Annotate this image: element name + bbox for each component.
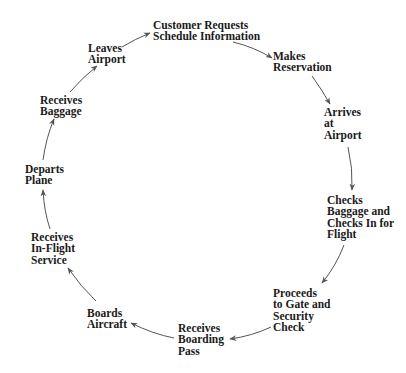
node-line: Aircraft	[87, 319, 127, 330]
node-leaves-airport: Leaves Airport	[88, 43, 126, 66]
node-line: Check	[273, 322, 331, 333]
node-line: Service	[31, 255, 75, 266]
node-arrives-at-airport: Arrives at Airport	[324, 107, 362, 141]
node-line: Airport	[324, 130, 362, 141]
node-line: Pass	[178, 346, 224, 357]
arrow-departs-to-baggage	[43, 119, 54, 160]
node-line: to Gate and	[273, 299, 331, 310]
arrow-baggage-to-leaves	[70, 66, 97, 92]
node-line: Flight	[327, 229, 394, 240]
node-line: Schedule Information	[153, 31, 260, 42]
node-line: Airport	[88, 54, 126, 65]
arrow-boards-to-inflight	[68, 268, 96, 301]
arrow-proceeds-to-boarding	[230, 327, 271, 339]
node-line: Baggage	[40, 106, 82, 117]
arrow-boarding-to-boards	[131, 323, 174, 338]
node-receives-boarding-pass: Receives Boarding Pass	[178, 323, 224, 357]
node-boards-aircraft: Boards Aircraft	[87, 308, 127, 331]
node-line: Plane	[25, 175, 64, 186]
arrow-arrives-to-checks	[348, 147, 352, 190]
node-line: Baggage and	[327, 206, 394, 217]
node-checks-baggage: Checks Baggage and Checks In for Flight	[327, 195, 394, 240]
node-proceeds-to-gate: Proceeds to Gate and Security Check	[273, 288, 331, 333]
arrow-makes-to-arrives	[312, 76, 330, 104]
node-makes-reservation: Makes Reservation	[273, 51, 332, 74]
arrow-leaves-to-customer	[122, 33, 150, 47]
node-receives-baggage: Receives Baggage	[40, 95, 82, 118]
node-customer-requests: Customer Requests Schedule Information	[153, 20, 260, 43]
node-line: In-Flight	[31, 243, 75, 254]
node-line: Reservation	[273, 62, 332, 73]
arrow-customer-to-makes	[233, 42, 272, 58]
node-departs-plane: Departs Plane	[25, 164, 64, 187]
arrow-checks-to-proceeds	[322, 245, 344, 283]
node-receives-in-flight-service: Receives In-Flight Service	[31, 232, 75, 266]
node-line: Boarding	[178, 334, 224, 345]
node-line: at	[324, 118, 362, 129]
arrow-inflight-to-departs	[43, 190, 50, 229]
customer-journey-cycle-diagram: Customer Requests Schedule Information M…	[0, 0, 406, 373]
